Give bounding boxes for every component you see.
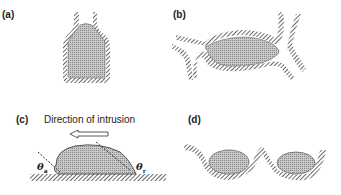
theta-symbol: θ — [136, 161, 143, 172]
theta-symbol: θ — [37, 161, 44, 172]
panel-c-label: (c) — [16, 114, 28, 125]
theta-advancing-label: θa — [37, 161, 48, 174]
solid-surface — [30, 174, 166, 181]
panel-a-label: (a) — [2, 9, 14, 20]
panel-b-pore — [172, 12, 306, 80]
panel-d-trapped-blobs — [184, 144, 326, 180]
arrow-left-icon — [70, 130, 108, 138]
theta-subscript: a — [44, 167, 48, 174]
intrusion-caption: Direction of intrusion — [44, 114, 135, 125]
panel-a-pore — [63, 12, 110, 83]
theta-receding-label: θr — [136, 161, 146, 174]
panel-b-label: (b) — [173, 9, 186, 20]
theta-subscript: r — [143, 167, 146, 174]
panel-d-label: (d) — [188, 114, 201, 125]
figure-canvas — [0, 0, 341, 195]
